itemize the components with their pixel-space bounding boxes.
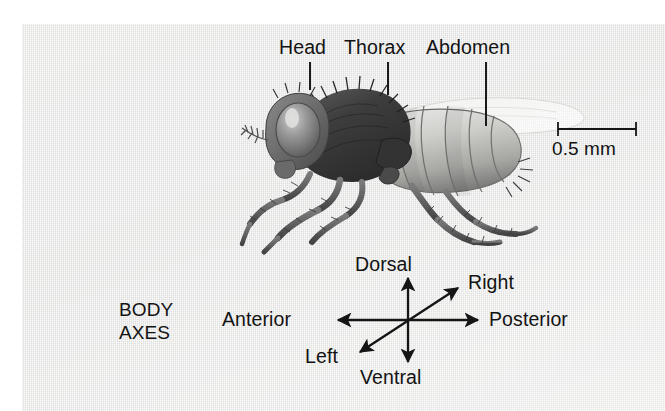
scale-bar-graphic — [552, 118, 642, 140]
axis-label-anterior: Anterior — [222, 308, 291, 331]
axis-label-ventral: Ventral — [360, 366, 421, 389]
fruit-fly-illustration — [232, 62, 632, 262]
antenna — [241, 125, 268, 143]
axis-label-left: Left — [305, 345, 338, 368]
axis-label-right: Right — [468, 271, 514, 294]
body-axes-caption-line1: BODY — [119, 298, 173, 321]
leader-line-thorax — [387, 62, 389, 95]
scale-bar-label: 0.5 mm — [552, 138, 616, 160]
body-axes-caption: BODY AXES — [119, 298, 173, 344]
axis-label-dorsal: Dorsal — [355, 253, 412, 276]
axis-label-posterior: Posterior — [489, 308, 568, 331]
body-axes-caption-line2: AXES — [119, 321, 173, 344]
label-head: Head — [279, 36, 326, 59]
figure-root: Head Thorax Abdomen 0.5 mm BODY AXES Dor… — [0, 0, 665, 411]
legs — [242, 174, 536, 252]
label-thorax: Thorax — [344, 36, 405, 59]
leader-line-head — [309, 62, 311, 90]
label-abdomen: Abdomen — [426, 36, 510, 59]
leader-line-abdomen — [485, 62, 487, 126]
